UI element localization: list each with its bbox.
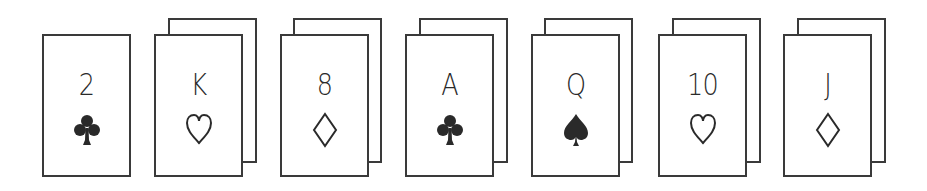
spade-icon <box>561 112 591 148</box>
card-rank: 8 <box>288 68 360 102</box>
card-j-diamonds: J <box>783 34 872 177</box>
card-10-hearts: 10 <box>658 34 747 177</box>
card-rank: K <box>162 68 234 102</box>
card-a-clubs: A <box>405 34 494 177</box>
card-8-diamonds: 8 <box>280 34 369 177</box>
club-icon <box>435 112 465 148</box>
card-q-spades: Q <box>531 34 620 177</box>
card-rank: 2 <box>50 68 122 102</box>
card-k-hearts: K <box>154 34 243 177</box>
club-icon <box>72 112 102 148</box>
heart-outline-icon <box>688 112 718 148</box>
card-rank: Q <box>539 68 611 102</box>
diamond-outline-icon <box>310 112 340 148</box>
card-rank: 10 <box>666 68 738 102</box>
heart-outline-icon <box>184 112 214 148</box>
card-rank: J <box>791 68 863 102</box>
diamond-outline-icon <box>813 112 843 148</box>
card-rank: A <box>413 68 485 102</box>
card-2-clubs: 2 <box>42 34 131 177</box>
